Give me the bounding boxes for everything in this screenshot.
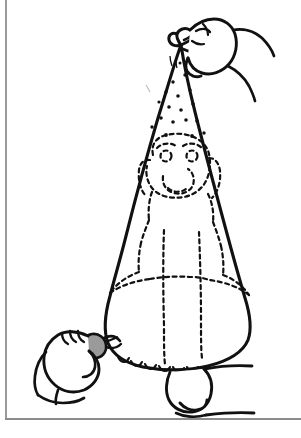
dog-paw <box>166 369 211 417</box>
top-hand <box>186 19 274 101</box>
bag-cone <box>105 45 250 370</box>
line-drawing-artwork <box>0 0 301 438</box>
illustration-page: Dusting a dog with flea powder inside a … <box>0 0 301 438</box>
